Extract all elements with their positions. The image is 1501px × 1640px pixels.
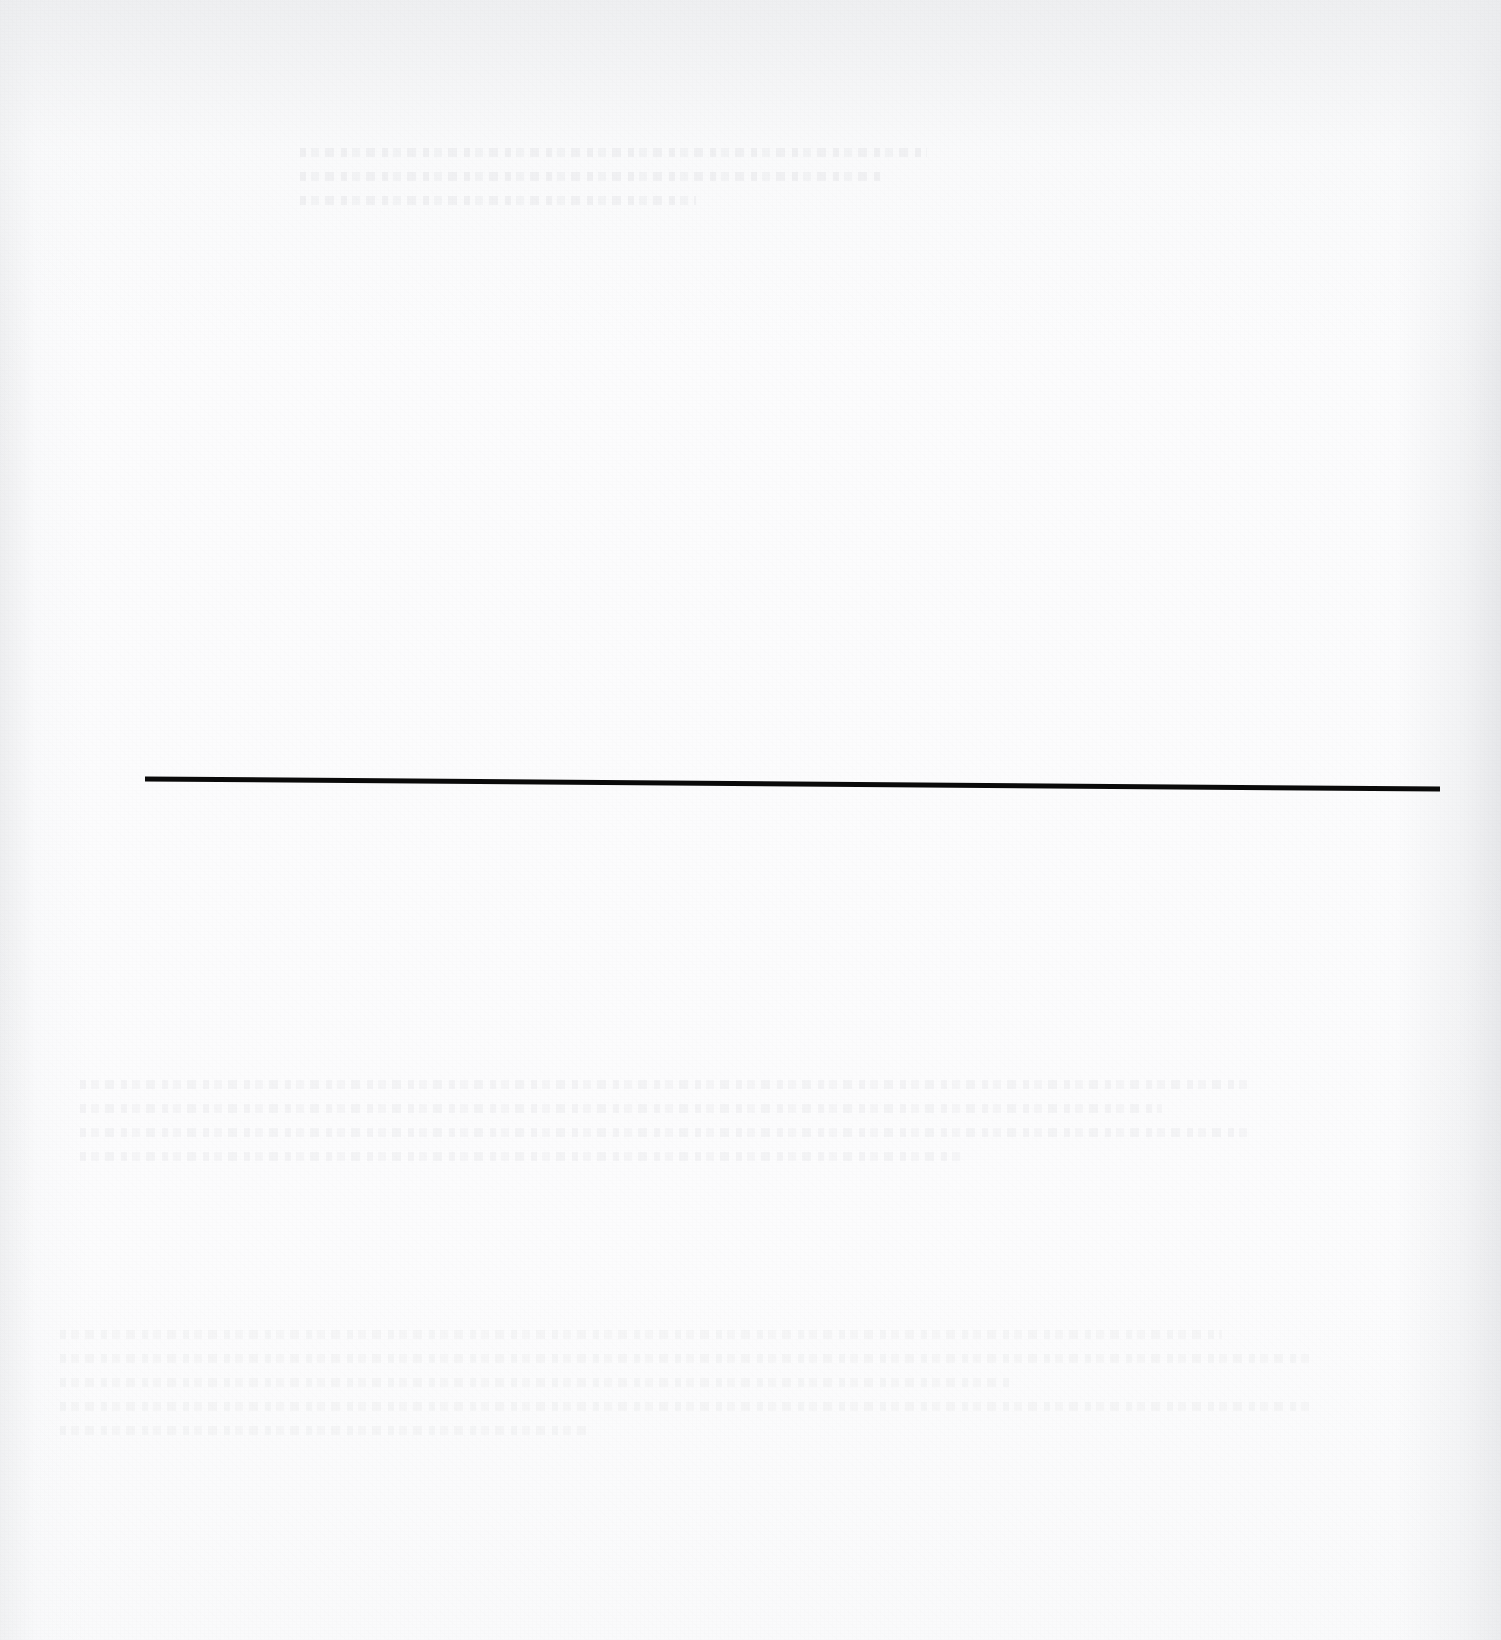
rule-layer — [0, 0, 1501, 1640]
ghost-text-line — [300, 196, 696, 205]
bleed-through-text-top — [300, 148, 960, 220]
horizontal-rule-svg — [0, 0, 1501, 1640]
ghost-text-line — [300, 172, 881, 181]
ghost-text-line — [60, 1330, 1222, 1339]
ghost-text-line — [60, 1426, 588, 1435]
bleed-through-text-bottom — [60, 1330, 1380, 1450]
paper-grain-texture — [0, 0, 1501, 1640]
scanner-vignette — [0, 0, 1501, 1640]
ghost-text-line — [60, 1402, 1314, 1411]
ghost-text-line — [300, 148, 927, 157]
ghost-text-line — [80, 1080, 1249, 1089]
ghost-text-line — [80, 1104, 1162, 1113]
page-text-content — [0, 0, 1, 1]
ghost-text-line — [80, 1128, 1249, 1137]
ghost-text-line — [60, 1354, 1314, 1363]
ghost-text-line — [80, 1152, 966, 1161]
scanned-page — [0, 0, 1501, 1640]
ghost-text-line — [60, 1378, 1010, 1387]
bleed-through-text-middle — [80, 1080, 1310, 1176]
horizontal-rule — [145, 779, 1440, 789]
